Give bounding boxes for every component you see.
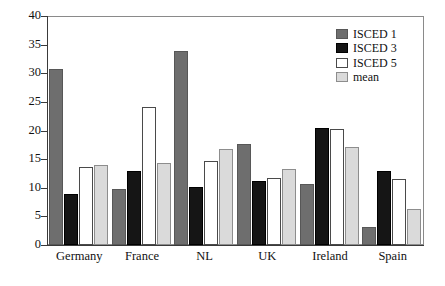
bar-isced1 xyxy=(300,184,314,245)
y-axis-tick-label: 35 xyxy=(5,38,41,51)
legend-item: ISCED 1 xyxy=(336,27,418,41)
bar-mean xyxy=(345,147,359,245)
light-gray-swatch xyxy=(336,72,348,82)
white-swatch xyxy=(336,58,348,68)
x-axis-line xyxy=(47,245,424,246)
bar-group xyxy=(174,16,233,245)
bar-isced1 xyxy=(174,51,188,245)
y-axis-tick-label: 0 xyxy=(5,238,41,251)
bar-isced5 xyxy=(204,161,218,245)
legend-item-label: ISCED 3 xyxy=(353,42,397,54)
bar-mean xyxy=(94,165,108,245)
x-axis-category-labels: GermanyFranceNLUKIrelandSpain xyxy=(48,250,424,272)
y-axis-tick-label: 5 xyxy=(5,209,41,222)
bar-isced5 xyxy=(392,179,406,245)
bar-isced5 xyxy=(330,129,344,245)
bar-isced5 xyxy=(79,167,93,245)
bar-mean xyxy=(282,169,296,245)
legend-item-label: ISCED 5 xyxy=(353,57,397,69)
bar-isced5 xyxy=(142,107,156,245)
bar-isced1 xyxy=(237,144,251,245)
bar-isced3 xyxy=(252,181,266,245)
y-axis-tick-label: 40 xyxy=(5,9,41,22)
bar-group xyxy=(49,16,108,245)
bar-isced3 xyxy=(127,171,141,245)
bar-isced3 xyxy=(64,194,78,245)
x-axis-category-label: Germany xyxy=(48,250,111,264)
bar-group xyxy=(237,16,296,245)
legend-item: ISCED 3 xyxy=(336,42,418,56)
x-axis-category-label: Spain xyxy=(361,250,424,264)
legend-item: ISCED 5 xyxy=(336,56,418,70)
x-axis-category-label: UK xyxy=(236,250,299,264)
chart-legend: ISCED 1ISCED 3ISCED 5mean xyxy=(336,27,418,85)
bar-isced1 xyxy=(362,227,376,245)
y-axis-tick-label: 10 xyxy=(5,181,41,194)
bar-mean xyxy=(407,209,421,245)
chart-container: 0510152025303540 GermanyFranceNLUKIrelan… xyxy=(0,0,445,286)
bar-isced1 xyxy=(112,189,126,245)
bar-isced3 xyxy=(377,171,391,245)
x-axis-category-label: France xyxy=(111,250,174,264)
y-axis-labels: 0510152025303540 xyxy=(0,0,41,286)
bar-isced5 xyxy=(267,178,281,245)
y-axis-tick-label: 30 xyxy=(5,66,41,79)
bar-isced3 xyxy=(189,187,203,245)
bar-isced1 xyxy=(49,69,63,245)
x-axis-category-label: Ireland xyxy=(299,250,362,264)
y-axis-tick-label: 25 xyxy=(5,95,41,108)
y-axis-tick-label: 20 xyxy=(5,124,41,137)
legend-item-label: mean xyxy=(353,71,379,83)
legend-item-label: ISCED 1 xyxy=(353,28,397,40)
legend-item: mean xyxy=(336,71,418,85)
bar-group xyxy=(112,16,171,245)
bar-isced3 xyxy=(315,128,329,245)
x-axis-category-label: NL xyxy=(173,250,236,264)
y-axis-tick-label: 15 xyxy=(5,152,41,165)
bar-mean xyxy=(157,163,171,245)
black-swatch xyxy=(336,43,348,53)
dark-gray-swatch xyxy=(336,29,348,39)
bar-mean xyxy=(219,149,233,245)
